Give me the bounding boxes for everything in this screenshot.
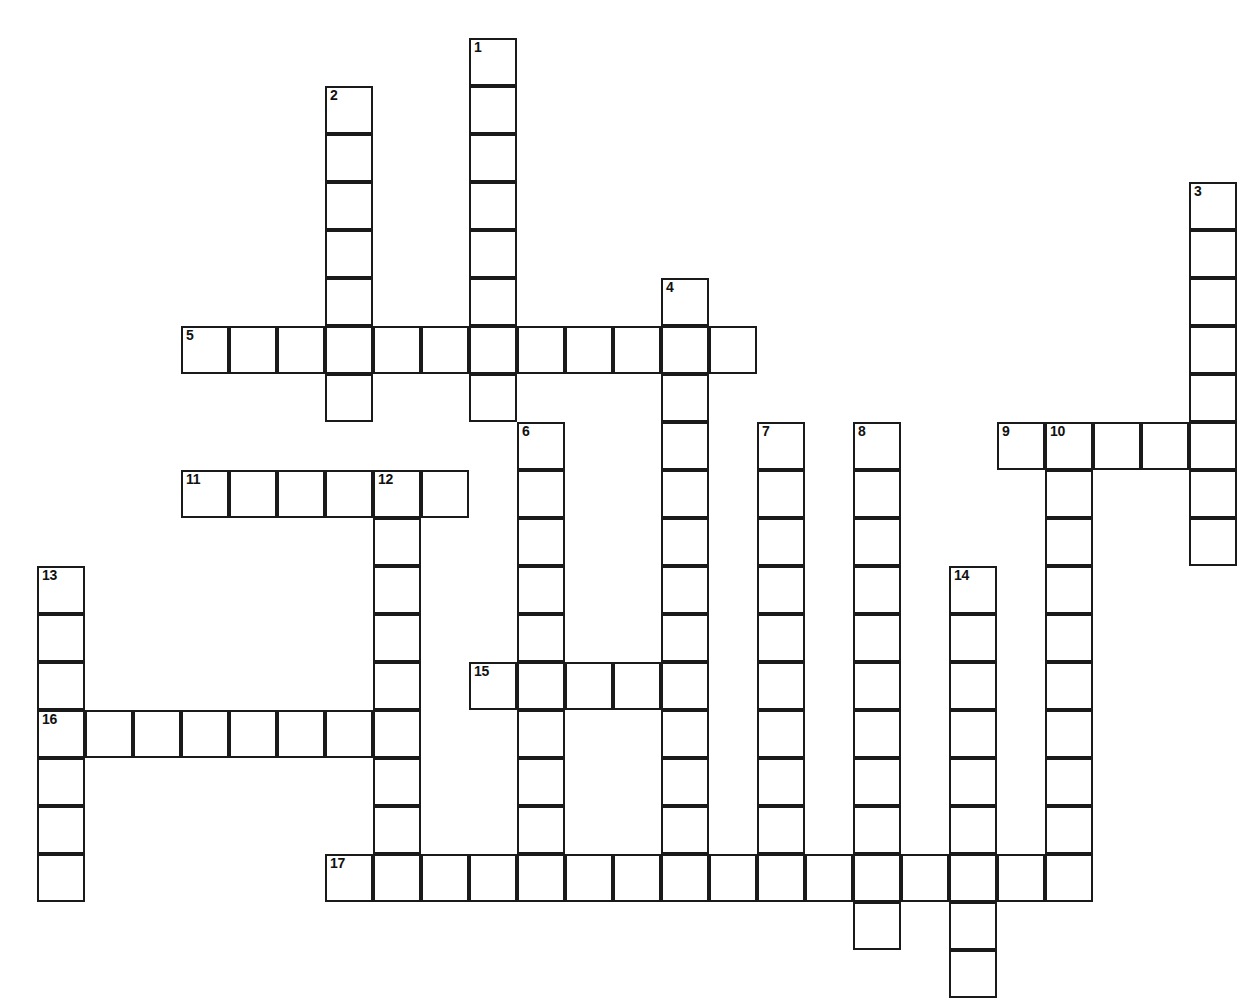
crossword-cell[interactable] xyxy=(757,806,805,854)
crossword-cell-numbered-17[interactable]: 17 xyxy=(325,854,373,902)
crossword-cell[interactable] xyxy=(661,614,709,662)
crossword-cell[interactable] xyxy=(421,470,469,518)
crossword-cell[interactable] xyxy=(949,806,997,854)
crossword-cell-numbered-4[interactable]: 4 xyxy=(661,278,709,326)
crossword-cell[interactable] xyxy=(517,326,565,374)
crossword-cell[interactable] xyxy=(37,854,85,902)
crossword-cell[interactable] xyxy=(949,854,997,902)
crossword-cell[interactable] xyxy=(229,710,277,758)
crossword-cell[interactable] xyxy=(997,854,1045,902)
crossword-cell[interactable] xyxy=(1189,470,1237,518)
crossword-cell[interactable] xyxy=(853,614,901,662)
crossword-cell[interactable] xyxy=(277,710,325,758)
crossword-cell[interactable] xyxy=(37,806,85,854)
crossword-cell[interactable] xyxy=(37,662,85,710)
crossword-cell[interactable] xyxy=(517,710,565,758)
crossword-cell[interactable] xyxy=(661,374,709,422)
crossword-cell-numbered-6[interactable]: 6 xyxy=(517,422,565,470)
crossword-cell-numbered-5[interactable]: 5 xyxy=(181,326,229,374)
crossword-cell[interactable] xyxy=(469,182,517,230)
crossword-cell[interactable] xyxy=(853,710,901,758)
crossword-cell[interactable] xyxy=(37,614,85,662)
crossword-cell[interactable] xyxy=(469,86,517,134)
crossword-cell[interactable] xyxy=(661,518,709,566)
crossword-cell[interactable] xyxy=(661,662,709,710)
crossword-cell[interactable] xyxy=(469,278,517,326)
crossword-cell-numbered-14[interactable]: 14 xyxy=(949,566,997,614)
crossword-cell[interactable] xyxy=(1045,662,1093,710)
crossword-cell[interactable] xyxy=(949,950,997,998)
crossword-cell[interactable] xyxy=(469,326,517,374)
crossword-cell[interactable] xyxy=(613,326,661,374)
crossword-cell[interactable] xyxy=(325,134,373,182)
crossword-cell[interactable] xyxy=(517,566,565,614)
crossword-cell[interactable] xyxy=(757,854,805,902)
crossword-cell-numbered-8[interactable]: 8 xyxy=(853,422,901,470)
crossword-cell[interactable] xyxy=(757,662,805,710)
crossword-cell[interactable] xyxy=(661,470,709,518)
crossword-cell[interactable] xyxy=(325,182,373,230)
crossword-cell[interactable] xyxy=(613,662,661,710)
crossword-cell[interactable] xyxy=(133,710,181,758)
crossword-cell[interactable] xyxy=(757,518,805,566)
crossword-cell-numbered-7[interactable]: 7 xyxy=(757,422,805,470)
crossword-cell[interactable] xyxy=(949,614,997,662)
crossword-cell[interactable] xyxy=(949,662,997,710)
crossword-cell[interactable] xyxy=(661,854,709,902)
crossword-cell[interactable] xyxy=(373,758,421,806)
crossword-cell[interactable] xyxy=(517,806,565,854)
crossword-cell-numbered-12[interactable]: 12 xyxy=(373,470,421,518)
crossword-cell-numbered-11[interactable]: 11 xyxy=(181,470,229,518)
crossword-cell[interactable] xyxy=(661,566,709,614)
crossword-cell[interactable] xyxy=(373,710,421,758)
crossword-cell[interactable] xyxy=(1045,518,1093,566)
crossword-cell[interactable] xyxy=(85,710,133,758)
crossword-cell[interactable] xyxy=(325,278,373,326)
crossword-cell[interactable] xyxy=(469,854,517,902)
crossword-cell[interactable] xyxy=(373,614,421,662)
crossword-cell[interactable] xyxy=(661,326,709,374)
crossword-cell[interactable] xyxy=(517,662,565,710)
crossword-cell[interactable] xyxy=(949,902,997,950)
crossword-cell[interactable] xyxy=(757,614,805,662)
crossword-cell[interactable] xyxy=(1189,422,1237,470)
crossword-cell[interactable] xyxy=(517,614,565,662)
crossword-cell[interactable] xyxy=(325,326,373,374)
crossword-cell[interactable] xyxy=(277,326,325,374)
crossword-cell[interactable] xyxy=(853,758,901,806)
crossword-cell[interactable] xyxy=(1141,422,1189,470)
crossword-cell[interactable] xyxy=(517,758,565,806)
crossword-cell[interactable] xyxy=(517,518,565,566)
crossword-cell[interactable] xyxy=(1189,374,1237,422)
crossword-cell[interactable] xyxy=(1045,566,1093,614)
crossword-cell[interactable] xyxy=(709,854,757,902)
crossword-cell-numbered-1[interactable]: 1 xyxy=(469,38,517,86)
crossword-cell[interactable] xyxy=(757,470,805,518)
crossword-cell[interactable] xyxy=(1189,518,1237,566)
crossword-cell-numbered-2[interactable]: 2 xyxy=(325,86,373,134)
crossword-cell[interactable] xyxy=(421,854,469,902)
crossword-cell[interactable] xyxy=(373,518,421,566)
crossword-cell[interactable] xyxy=(1045,470,1093,518)
crossword-cell[interactable] xyxy=(757,566,805,614)
crossword-cell[interactable] xyxy=(37,758,85,806)
crossword-cell[interactable] xyxy=(1045,854,1093,902)
crossword-cell[interactable] xyxy=(949,710,997,758)
crossword-cell[interactable] xyxy=(565,854,613,902)
crossword-cell-numbered-16[interactable]: 16 xyxy=(37,710,85,758)
crossword-cell[interactable] xyxy=(325,230,373,278)
crossword-cell[interactable] xyxy=(1189,278,1237,326)
crossword-cell[interactable] xyxy=(661,758,709,806)
crossword-cell[interactable] xyxy=(1189,326,1237,374)
crossword-cell[interactable] xyxy=(469,230,517,278)
crossword-cell[interactable] xyxy=(853,470,901,518)
crossword-cell-numbered-3[interactable]: 3 xyxy=(1189,182,1237,230)
crossword-cell[interactable] xyxy=(565,662,613,710)
crossword-cell-numbered-15[interactable]: 15 xyxy=(469,662,517,710)
crossword-cell-numbered-9[interactable]: 9 xyxy=(997,422,1045,470)
crossword-cell[interactable] xyxy=(517,854,565,902)
crossword-cell[interactable] xyxy=(469,134,517,182)
crossword-cell[interactable] xyxy=(1045,710,1093,758)
crossword-cell-numbered-13[interactable]: 13 xyxy=(37,566,85,614)
crossword-cell[interactable] xyxy=(1045,614,1093,662)
